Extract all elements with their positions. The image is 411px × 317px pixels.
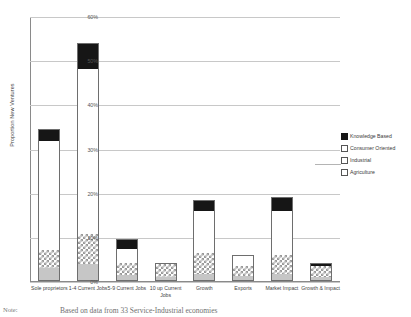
stacked-bar[interactable]: [38, 129, 60, 281]
bar-group: [185, 17, 224, 281]
stacked-bar[interactable]: [77, 43, 99, 281]
bar-segment-industrial: [194, 253, 214, 274]
x-axis-tick-label: Market Impact: [263, 285, 302, 299]
y-axis-tick-label: 40%: [70, 102, 98, 108]
bar-segment-consumer: [194, 211, 214, 253]
legend-label: Agriculture: [350, 169, 375, 175]
bar-segment-consumer: [233, 256, 253, 266]
stacked-bar[interactable]: [116, 239, 138, 281]
legend-item-knowledge[interactable]: Knowledge Based: [341, 133, 411, 140]
legend-swatch-knowledge-icon: [341, 133, 348, 140]
bar-segment-industrial: [311, 266, 331, 277]
x-axis-tick-label: Sole proprietors: [30, 285, 69, 299]
legend-swatch-industrial-icon: [341, 157, 348, 164]
bar-segment-knowledge: [194, 201, 214, 211]
legend-label: Industrial: [350, 157, 371, 163]
caption-note-text: Based on data from 33 Service-Industrial…: [60, 306, 217, 315]
y-axis-tick-label: 20%: [70, 191, 98, 197]
x-axis-tick-label: Exports: [224, 285, 263, 299]
y-axis-tick-label: 10%: [70, 235, 98, 241]
legend-leader-line: [315, 164, 341, 165]
x-axis-labels: Sole proprietors1-4 Current Jobs5-9 Curr…: [30, 285, 340, 299]
x-axis-tick-label: 1-4 Current Jobs: [69, 285, 108, 299]
bar-segment-industrial: [272, 255, 292, 274]
x-axis-tick-label: Growth & Impact: [301, 285, 340, 299]
bar-segment-agriculture: [233, 276, 253, 280]
bar-segment-knowledge: [117, 240, 137, 248]
legend-item-industrial[interactable]: Industrial: [341, 157, 411, 164]
bar-segment-agriculture: [78, 264, 98, 280]
stacked-bar[interactable]: [310, 263, 332, 281]
stacked-bar[interactable]: [155, 263, 177, 281]
stacked-bar[interactable]: [232, 255, 254, 281]
caption-note-label: Note:: [3, 306, 17, 313]
legend-label: Consumer Oriented: [350, 145, 395, 151]
stacked-bar[interactable]: [193, 200, 215, 281]
y-axis-tick-label: 50%: [70, 58, 98, 64]
bar-segment-consumer: [39, 141, 59, 250]
bar-segment-industrial: [233, 266, 253, 276]
bar-segment-knowledge: [272, 198, 292, 210]
stacked-bar[interactable]: [271, 197, 293, 281]
bar-segment-consumer: [117, 249, 137, 263]
bar-segment-knowledge: [78, 44, 98, 69]
bar-segment-industrial: [156, 264, 176, 277]
bar-segment-consumer: [272, 211, 292, 255]
bar-segment-agriculture: [311, 277, 331, 280]
x-axis-tick-label: 10 up Current Jobs: [146, 285, 185, 299]
bar-group: [146, 17, 185, 281]
legend-swatch-agriculture-icon: [341, 169, 348, 176]
bar-segment-agriculture: [194, 274, 214, 280]
legend-label: Knowledge Based: [350, 133, 392, 139]
x-axis-tick-label: Growth: [185, 285, 224, 299]
bar-segment-knowledge: [39, 130, 59, 141]
legend-item-agriculture[interactable]: Agriculture: [341, 169, 411, 176]
bar-segment-agriculture: [39, 268, 59, 280]
bar-group: [224, 17, 263, 281]
bar-segment-agriculture: [117, 275, 137, 280]
bar-group: [108, 17, 147, 281]
bar-segment-agriculture: [272, 274, 292, 280]
legend-item-consumer[interactable]: Consumer Oriented: [341, 145, 411, 152]
bar-group: [301, 17, 340, 281]
y-axis-tick-label: 60%: [70, 14, 98, 20]
bar-segment-industrial: [39, 250, 59, 268]
figure-caption: Note: Based on data from 33 Service-Indu…: [0, 306, 411, 317]
bar-group: [263, 17, 302, 281]
y-axis-tick-label: 30%: [70, 147, 98, 153]
bar-segment-industrial: [117, 263, 137, 275]
bar-group: [30, 17, 69, 281]
y-axis-title: Proportion New Ventures: [9, 45, 15, 185]
x-axis-tick-label: 5-9 Current Jobs: [108, 285, 147, 299]
bar-segment-agriculture: [156, 277, 176, 280]
legend-swatch-consumer-icon: [341, 145, 348, 152]
legend: Knowledge BasedConsumer OrientedIndustri…: [341, 133, 411, 181]
stacked-bar-chart: Proportion New Ventures 60%50%40%30%20%1…: [0, 0, 411, 317]
